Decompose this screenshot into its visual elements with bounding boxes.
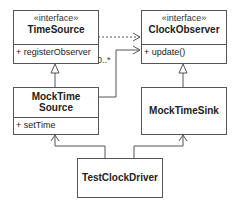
class-name-line1: MockTime (14, 91, 98, 102)
stereotype-label: «interface» (14, 13, 98, 24)
triangle-arrow-icon (179, 64, 187, 73)
class-name: TimeSource (14, 24, 98, 35)
class-name: ClockObserver (142, 24, 226, 35)
dependency-line (55, 135, 105, 158)
member-item: + registerObserver (14, 44, 98, 60)
member-item: + update() (142, 44, 226, 60)
stereotype-label: «interface» (142, 13, 226, 24)
class-name: MockTimeSink (142, 105, 226, 116)
class-mocktimesink[interactable]: MockTimeSink (141, 87, 227, 135)
class-name: TestClockDriver (78, 172, 162, 183)
class-timesource[interactable]: «interface» TimeSource + registerObserve… (13, 10, 99, 64)
class-clockobserver[interactable]: «interface» ClockObserver + update() (141, 10, 227, 64)
triangle-arrow-icon (51, 64, 59, 73)
multiplicity-label: 0..* (97, 55, 111, 65)
class-mocktimesource[interactable]: MockTime Source + setTime (13, 87, 99, 135)
class-name-line2: Source (14, 102, 98, 113)
class-testclockdriver[interactable]: TestClockDriver (77, 158, 163, 198)
member-item: + setTime (14, 117, 98, 133)
dependency-line (134, 135, 183, 158)
